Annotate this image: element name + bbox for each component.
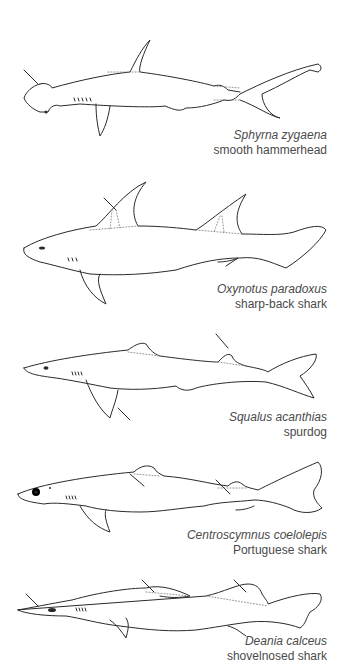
common-name: sharp-back shark	[217, 297, 327, 312]
common-name: shovelnosed shark	[227, 649, 327, 664]
plate-sharp-back-shark: Oxynotus paradoxus sharp-back shark	[0, 170, 345, 320]
portuguese-shark-illustration	[0, 450, 345, 580]
latin-name: Oxynotus paradoxus	[217, 282, 327, 297]
plate-spurdog: Squalus acanthias spurdog	[0, 320, 345, 450]
plate-shovelnosed-shark: Deania calceus shovelnosed shark	[0, 580, 345, 672]
caption-spurdog: Squalus acanthias spurdog	[229, 410, 327, 440]
common-name: Portuguese shark	[187, 543, 327, 558]
common-name: spurdog	[229, 425, 327, 440]
latin-name: Deania calceus	[227, 634, 327, 649]
caption-sharp-back-shark: Oxynotus paradoxus sharp-back shark	[217, 282, 327, 312]
caption-shovelnosed-shark: Deania calceus shovelnosed shark	[227, 634, 327, 664]
plate-portuguese-shark: Centroscymnus coelolepis Portuguese shar…	[0, 450, 345, 580]
latin-name: Centroscymnus coelolepis	[187, 528, 327, 543]
latin-name: Sphyrna zygaena	[214, 128, 327, 143]
latin-name: Squalus acanthias	[229, 410, 327, 425]
caption-smooth-hammerhead: Sphyrna zygaena smooth hammerhead	[214, 128, 327, 158]
caption-portuguese-shark: Centroscymnus coelolepis Portuguese shar…	[187, 528, 327, 558]
plate-smooth-hammerhead: Sphyrna zygaena smooth hammerhead	[0, 0, 345, 170]
common-name: smooth hammerhead	[214, 143, 327, 158]
